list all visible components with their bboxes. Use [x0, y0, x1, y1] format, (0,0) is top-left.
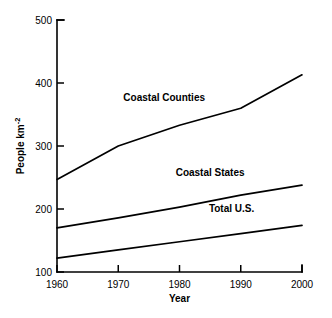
y-tick-group — [57, 20, 64, 272]
x-axis-title: Year — [169, 293, 190, 304]
series-line-total-us — [57, 225, 302, 258]
y-axis-title-base: People km — [15, 124, 26, 174]
y-tick-label-500: 500 — [35, 15, 52, 26]
series-label-coastal-states: Coastal States — [176, 167, 245, 178]
x-tick-group — [57, 265, 302, 272]
y-tick-label-200: 200 — [35, 204, 52, 215]
x-tick-label-1960: 1960 — [46, 279, 69, 290]
series-label-total-us: Total U.S. — [209, 203, 255, 214]
y-axis-title-exponent: -2 — [13, 118, 22, 125]
x-tick-label-1980: 1980 — [168, 279, 191, 290]
y-tick-label-300: 300 — [35, 141, 52, 152]
axes-group — [57, 20, 302, 272]
x-tick-label-1970: 1970 — [107, 279, 130, 290]
y-axis-title: People km-2 — [13, 118, 26, 175]
x-tick-label-1990: 1990 — [230, 279, 253, 290]
x-tick-label-2000: 2000 — [291, 279, 314, 290]
chart-container: 500 400 300 200 100 1960 1970 1980 1990 … — [0, 0, 332, 318]
series-label-coastal-counties: Coastal Counties — [123, 92, 205, 103]
svg-text:People km-2: People km-2 — [13, 118, 26, 175]
y-tick-label-400: 400 — [35, 78, 52, 89]
population-density-line-chart: 500 400 300 200 100 1960 1970 1980 1990 … — [0, 0, 332, 318]
series-line-coastal-counties — [57, 75, 302, 180]
x-tick-labels: 1960 1970 1980 1990 2000 — [46, 279, 314, 290]
y-tick-labels: 500 400 300 200 100 — [35, 15, 52, 278]
y-tick-label-100: 100 — [35, 267, 52, 278]
series-line-coastal-states — [57, 185, 302, 228]
